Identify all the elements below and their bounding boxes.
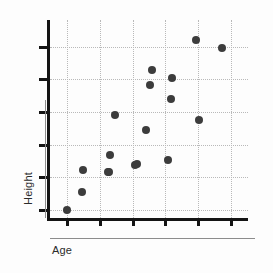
gridline-vertical-0	[67, 20, 68, 218]
data-point	[142, 126, 150, 134]
data-point	[195, 116, 203, 124]
gridline-horizontal-0	[50, 210, 248, 211]
y-axis-title: Height	[22, 95, 34, 205]
x-axis-tick-5	[230, 218, 233, 226]
x-axis-rule	[50, 238, 255, 239]
gridline-horizontal-3	[50, 112, 248, 113]
x-axis-tick-4	[197, 218, 200, 226]
data-point	[78, 188, 86, 196]
gridline-vertical-3	[165, 20, 166, 218]
data-point	[63, 206, 71, 214]
data-point	[111, 111, 119, 119]
data-point	[218, 44, 226, 52]
gridline-horizontal-1	[50, 177, 248, 178]
x-axis-tick-0	[66, 218, 69, 226]
data-point	[106, 151, 114, 159]
scatter-plot-figure: Height Age	[0, 0, 273, 273]
gridline-horizontal-2	[50, 145, 248, 146]
x-axis-title: Age	[52, 244, 72, 256]
y-axis-tick-5	[39, 46, 47, 49]
x-axis-line	[47, 218, 248, 221]
plot-area	[50, 20, 248, 218]
y-axis-line	[47, 20, 50, 221]
data-point	[131, 161, 139, 169]
data-point	[146, 81, 154, 89]
gridline-vertical-2	[133, 20, 134, 218]
data-point	[79, 166, 87, 174]
data-point	[167, 95, 175, 103]
gridline-vertical-1	[100, 20, 101, 218]
data-point	[164, 156, 172, 164]
y-axis-rule	[45, 100, 46, 218]
data-point	[104, 168, 112, 176]
data-point	[148, 66, 156, 74]
data-point	[168, 74, 176, 82]
gridline-vertical-5	[231, 20, 232, 218]
x-axis-tick-2	[132, 218, 135, 226]
y-axis-tick-4	[39, 78, 47, 81]
x-axis-tick-3	[164, 218, 167, 226]
x-axis-tick-1	[99, 218, 102, 226]
x-axis-title-group: Age	[50, 238, 255, 264]
y-axis-title-group: Height	[10, 100, 46, 218]
